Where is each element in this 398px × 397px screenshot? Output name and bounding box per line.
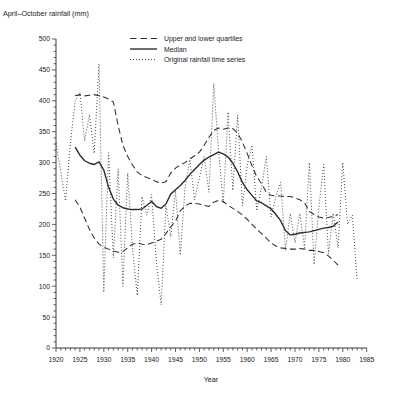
legend-item-quartiles: Upper and lower quartiles <box>130 35 243 43</box>
x-tick-label: 1925 <box>72 356 87 363</box>
y-tick-label: 50 <box>42 314 50 321</box>
x-axis-label: Year <box>204 375 219 384</box>
y-tick-label: 300 <box>39 159 51 166</box>
legend-label-original: Original rainfall time series <box>164 56 246 64</box>
legend-item-median: Median <box>130 46 187 53</box>
y-tick-label: 250 <box>39 190 51 197</box>
legend: Upper and lower quartiles Median Origina… <box>130 35 246 64</box>
y-tick-label: 500 <box>39 35 51 42</box>
x-tick-label: 1950 <box>192 356 207 363</box>
lower-quartile-line <box>75 200 338 266</box>
chart-title: April–October rainfall (mm) <box>3 9 89 18</box>
median-line <box>75 147 338 235</box>
data-series <box>56 64 357 305</box>
y-tick-label: 0 <box>46 344 50 351</box>
y-tick-label: 200 <box>39 221 51 228</box>
y-tick-label: 100 <box>39 283 51 290</box>
x-tick-label: 1975 <box>311 356 326 363</box>
x-tick-label: 1955 <box>216 356 231 363</box>
legend-item-original: Original rainfall time series <box>130 56 246 64</box>
y-tick-label: 400 <box>39 97 51 104</box>
x-tick-label: 1970 <box>287 356 302 363</box>
x-tick-label: 1930 <box>96 356 111 363</box>
original-rainfall-time-series-line <box>56 64 357 305</box>
rainfall-quartiles-figure: April–October rainfall (mm) 192019251930… <box>0 0 398 397</box>
x-tick-label: 1920 <box>48 356 63 363</box>
x-tick-label: 1985 <box>359 356 374 363</box>
x-tick-label: 1980 <box>335 356 350 363</box>
axes: 1920192519301935194019451950195519601965… <box>39 35 375 362</box>
x-tick-label: 1940 <box>144 356 159 363</box>
x-tick-label: 1945 <box>168 356 183 363</box>
chart-canvas: April–October rainfall (mm) 192019251930… <box>0 0 398 397</box>
legend-label-quartiles: Upper and lower quartiles <box>164 35 243 43</box>
y-tick-label: 150 <box>39 252 51 259</box>
x-tick-label: 1935 <box>120 356 135 363</box>
legend-label-median: Median <box>164 46 187 53</box>
y-tick-label: 450 <box>39 66 51 73</box>
y-tick-label: 350 <box>39 128 51 135</box>
x-tick-label: 1960 <box>240 356 255 363</box>
x-tick-label: 1965 <box>264 356 279 363</box>
